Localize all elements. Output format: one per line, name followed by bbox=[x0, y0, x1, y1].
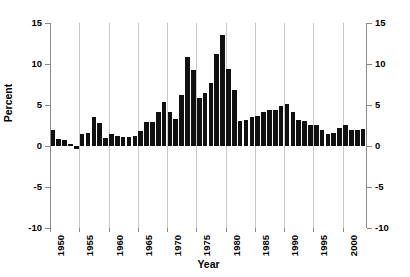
bar bbox=[267, 110, 272, 146]
y-tick-label-left: -5 bbox=[34, 182, 42, 192]
x-tick-mark bbox=[313, 228, 314, 232]
right-axis-line bbox=[366, 23, 367, 228]
y-tick-label-right: -10 bbox=[375, 223, 389, 233]
left-axis-line bbox=[50, 23, 51, 228]
bar bbox=[244, 120, 249, 146]
bar bbox=[133, 136, 138, 146]
x-tick-label: 1955 bbox=[84, 235, 95, 256]
bar bbox=[214, 54, 219, 146]
bar bbox=[296, 120, 301, 146]
y-tick-label-left: 15 bbox=[31, 18, 42, 28]
y-tick-label-right: 5 bbox=[375, 100, 380, 110]
bar bbox=[273, 110, 278, 146]
x-tick-mark bbox=[138, 228, 139, 232]
x-tick-mark bbox=[79, 228, 80, 232]
bar bbox=[314, 125, 319, 146]
bar bbox=[80, 134, 85, 146]
bar bbox=[150, 122, 155, 146]
bar bbox=[173, 119, 178, 146]
bar bbox=[51, 130, 56, 146]
bar bbox=[197, 98, 202, 146]
x-tick-label: 1995 bbox=[318, 235, 329, 256]
bar bbox=[179, 95, 184, 146]
y-tick-label-left: 5 bbox=[37, 100, 42, 110]
x-tick-mark bbox=[343, 228, 344, 232]
bar bbox=[349, 130, 354, 146]
bar bbox=[279, 106, 284, 146]
y-tick-label-left: -10 bbox=[28, 223, 42, 233]
bar bbox=[331, 133, 336, 146]
bar bbox=[168, 112, 173, 146]
bar bbox=[308, 125, 313, 146]
bar bbox=[255, 116, 260, 146]
y-tick-mark-right bbox=[367, 23, 372, 24]
x-tick-label: 1990 bbox=[289, 235, 300, 256]
x-tick-mark bbox=[167, 228, 168, 232]
plot-area: 151050-5-10 151050-5-10 1950195519601965… bbox=[50, 23, 367, 228]
bar bbox=[203, 93, 208, 146]
y-tick-mark-left bbox=[45, 105, 50, 106]
bar bbox=[291, 112, 296, 146]
y-axis-label: Percent bbox=[2, 84, 14, 123]
y-tick-label-right: 15 bbox=[375, 18, 386, 28]
bar bbox=[156, 112, 161, 146]
bar bbox=[209, 83, 214, 146]
bar bbox=[238, 121, 243, 146]
bar bbox=[86, 133, 91, 146]
gridline bbox=[109, 23, 110, 228]
x-tick-mark bbox=[50, 228, 51, 232]
bar bbox=[144, 122, 149, 146]
x-tick-label: 1960 bbox=[114, 235, 125, 256]
x-tick-label: 1950 bbox=[55, 235, 66, 256]
bar bbox=[138, 131, 143, 146]
y-tick-mark-right bbox=[367, 187, 372, 188]
y-tick-mark-left bbox=[45, 64, 50, 65]
x-tick-label: 1970 bbox=[172, 235, 183, 256]
bar bbox=[261, 112, 266, 146]
x-tick-mark bbox=[109, 228, 110, 232]
bar bbox=[226, 69, 231, 146]
bar bbox=[109, 134, 114, 146]
bar bbox=[220, 35, 225, 146]
bar bbox=[343, 125, 348, 146]
bar bbox=[97, 123, 102, 146]
y-tick-mark-right bbox=[367, 146, 372, 147]
bar bbox=[250, 117, 255, 146]
y-tick-label-left: 0 bbox=[37, 141, 42, 151]
bar bbox=[337, 128, 342, 146]
bar bbox=[56, 139, 61, 146]
bar bbox=[115, 136, 120, 146]
bar bbox=[185, 57, 190, 146]
bar bbox=[162, 102, 167, 146]
x-tick-mark bbox=[284, 228, 285, 232]
bar bbox=[232, 90, 237, 146]
y-tick-mark-left bbox=[45, 23, 50, 24]
x-tick-mark bbox=[226, 228, 227, 232]
x-axis-label: Year bbox=[50, 258, 367, 270]
bar bbox=[326, 134, 331, 146]
x-tick-label: 1965 bbox=[143, 235, 154, 256]
gridline bbox=[138, 23, 139, 228]
y-tick-label-right: -5 bbox=[375, 182, 383, 192]
y-tick-mark-right bbox=[367, 228, 372, 229]
bar bbox=[285, 104, 290, 146]
bar bbox=[191, 70, 196, 146]
bar-chart-figure: Percent Year 151050-5-10 151050-5-10 195… bbox=[0, 0, 410, 277]
bar bbox=[127, 137, 132, 146]
x-tick-label: 1985 bbox=[260, 235, 271, 256]
y-tick-mark-right bbox=[367, 64, 372, 65]
bar bbox=[302, 121, 307, 146]
bar bbox=[361, 129, 366, 146]
gridline bbox=[79, 23, 80, 228]
bar bbox=[121, 137, 126, 146]
x-tick-mark bbox=[196, 228, 197, 232]
bar bbox=[68, 144, 73, 146]
y-tick-mark-left bbox=[45, 146, 50, 147]
x-tick-label: 2000 bbox=[348, 235, 359, 256]
bar bbox=[74, 146, 79, 149]
y-tick-label-left: 10 bbox=[31, 59, 42, 69]
bar bbox=[103, 138, 108, 146]
y-tick-label-right: 10 bbox=[375, 59, 386, 69]
bar bbox=[62, 140, 67, 146]
bar bbox=[320, 130, 325, 146]
